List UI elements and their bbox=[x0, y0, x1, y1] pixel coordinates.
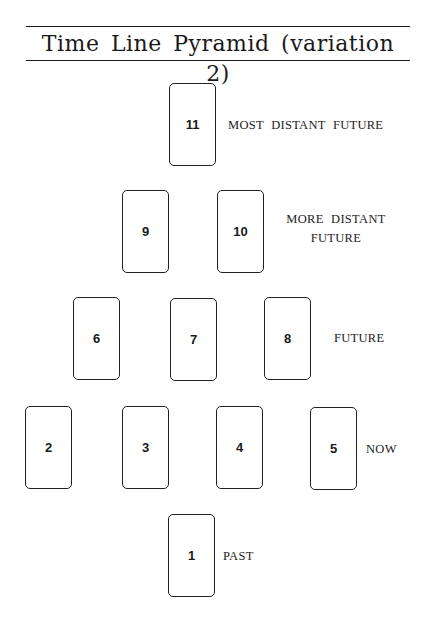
card-5: 5 bbox=[310, 407, 357, 490]
card-number: 7 bbox=[190, 332, 197, 347]
title-rule-top bbox=[26, 26, 410, 27]
card-number: 10 bbox=[233, 224, 247, 239]
label-line: MORE DISTANT bbox=[280, 210, 392, 229]
card-number: 11 bbox=[186, 117, 200, 132]
card-8: 8 bbox=[264, 297, 311, 380]
card-number: 9 bbox=[142, 224, 149, 239]
card-number: 1 bbox=[188, 548, 195, 563]
label-future: FUTURE bbox=[334, 329, 384, 348]
card-number: 3 bbox=[142, 440, 149, 455]
card-number: 2 bbox=[45, 440, 52, 455]
diagram-title: Time Line Pyramid (variation 2) bbox=[26, 29, 410, 59]
label-more-distant-future: MORE DISTANT FUTURE bbox=[280, 210, 392, 248]
card-6: 6 bbox=[73, 297, 120, 380]
card-10: 10 bbox=[217, 190, 264, 273]
card-number: 8 bbox=[284, 331, 291, 346]
title-rule-bottom bbox=[26, 60, 410, 61]
card-number: 5 bbox=[330, 441, 337, 456]
card-7: 7 bbox=[170, 298, 217, 381]
card-3: 3 bbox=[122, 406, 169, 489]
card-2: 2 bbox=[25, 406, 72, 489]
label-line: FUTURE bbox=[280, 229, 392, 248]
card-9: 9 bbox=[122, 190, 169, 273]
card-4: 4 bbox=[216, 406, 263, 489]
card-1: 1 bbox=[168, 514, 215, 597]
card-number: 6 bbox=[93, 331, 100, 346]
label-most-distant-future: MOST DISTANT FUTURE bbox=[228, 116, 383, 135]
label-now: NOW bbox=[366, 440, 397, 459]
card-11: 11 bbox=[169, 83, 216, 166]
label-past: PAST bbox=[223, 547, 254, 566]
card-number: 4 bbox=[236, 440, 243, 455]
